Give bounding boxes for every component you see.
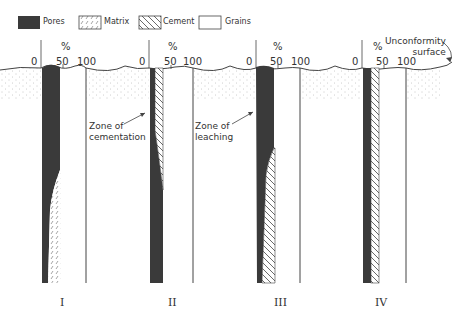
legend-pores-swatch [18,16,40,29]
column-3 [256,40,300,283]
axis-tick-100-2: 100 [183,56,202,67]
zone-of-leaching-label: Zone of leaching [195,121,233,143]
column-label-4: IV [375,296,387,309]
axis-tick-50-1: 50 [56,56,69,67]
axis-tick-0-3: 0 [246,56,252,67]
column-4 [362,40,406,283]
legend-cement-label: Cement [163,17,194,26]
axis-tick-0-4: 0 [352,56,358,67]
axis-tick-0-1: 0 [31,56,37,67]
axis-unit-1: % [61,41,71,52]
axis-tick-0-2: 0 [139,56,145,67]
axis-tick-100-1: 100 [77,56,96,67]
legend-matrix-swatch [79,16,101,29]
legend-pores-label: Pores [43,17,65,26]
zone-of-cementation-label: Zone of cementation [89,121,146,143]
axis-unit-2: % [168,41,178,52]
legend-cement-swatch [139,16,161,29]
column-label-3: III [274,296,287,309]
axis-unit-4: % [373,41,383,52]
column-label-1: I [60,296,64,309]
legend-grains-swatch [199,16,221,29]
unconformity-surface-label: Unconformity surface [385,36,446,58]
axis-tick-50-3: 50 [270,56,283,67]
column-2 [149,40,193,283]
column-label-2: II [168,296,177,309]
legend-matrix-label: Matrix [104,17,129,26]
axis-tick-50-2: 50 [164,56,177,67]
axis-tick-100-3: 100 [291,56,310,67]
legend-grains-label: Grains [225,17,251,26]
axis-unit-3: % [273,41,283,52]
column-1 [41,40,86,283]
